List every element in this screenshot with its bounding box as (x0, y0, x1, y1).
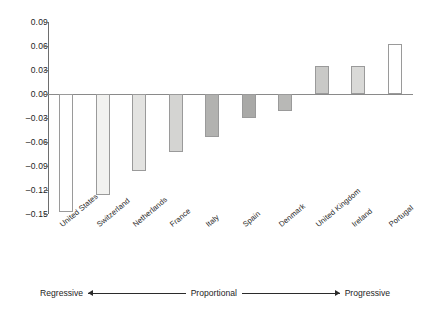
y-axis-tick-labels: 0.090.060.030.00–0.03–0.06–0.09–0.12–0.1… (0, 0, 48, 313)
bar (96, 94, 110, 195)
x-axis-category-label: Italy (204, 213, 221, 229)
bar-chart: 0.090.060.030.00–0.03–0.06–0.09–0.12–0.1… (0, 0, 424, 313)
y-tick-label: 0.06 (4, 41, 48, 51)
bar (169, 94, 183, 152)
caption-progressive-label: Progressive (345, 288, 390, 298)
bar (242, 94, 256, 118)
plot-area (48, 22, 413, 214)
bar (315, 66, 329, 94)
bar (351, 66, 365, 94)
y-tick-label: –0.15 (4, 209, 48, 219)
caption-regressive-label: Regressive (40, 288, 83, 298)
bar (278, 94, 292, 111)
bar (388, 44, 402, 94)
y-tick-mark (44, 214, 48, 215)
y-tick-label: 0.00 (4, 89, 48, 99)
y-tick-label: 0.09 (4, 17, 48, 27)
bar (205, 94, 219, 137)
bar (59, 94, 73, 212)
y-tick-label: –0.12 (4, 185, 48, 195)
y-tick-label: –0.09 (4, 161, 48, 171)
arrow-right-icon (242, 290, 340, 297)
y-tick-label: 0.03 (4, 65, 48, 75)
bar (132, 94, 146, 171)
arrow-left-icon (88, 290, 186, 297)
y-tick-label: –0.03 (4, 113, 48, 123)
caption-proportional-label: Proportional (191, 288, 237, 298)
axis-caption: Regressive Proportional Progressive (40, 286, 390, 300)
y-tick-label: –0.06 (4, 137, 48, 147)
